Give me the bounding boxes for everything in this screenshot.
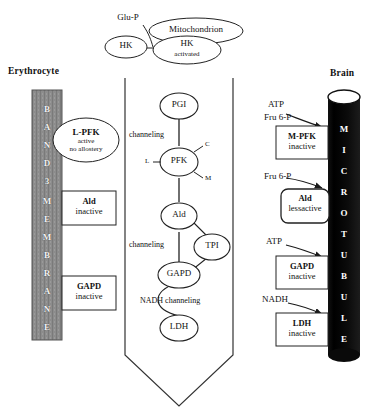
tpi-label: TPI bbox=[192, 241, 232, 250]
erythrocyte-panel-title: Erythrocyte bbox=[8, 66, 59, 76]
hk-activated-label-1: HK bbox=[157, 39, 217, 48]
microtubule-letter: B bbox=[336, 271, 352, 281]
band3-letter: 3 bbox=[39, 176, 55, 186]
microtubule-bottom-cap bbox=[328, 348, 360, 362]
channeling-label-2: channeling bbox=[129, 240, 164, 249]
hk-free-label: HK bbox=[106, 41, 146, 50]
microtubule-letter: M bbox=[336, 124, 352, 134]
l-pfk-name: L-PFK bbox=[53, 128, 119, 137]
glu-p-label: Glu-P bbox=[108, 13, 148, 22]
pgi-label: PGI bbox=[159, 100, 199, 109]
erythrocyte-ald-state: inactive bbox=[62, 207, 116, 217]
microtubule-letter: I bbox=[336, 145, 352, 155]
band3-letter: M bbox=[39, 196, 55, 206]
brain-gapd-state: inactive bbox=[276, 272, 328, 282]
brain-ald-state: lessactive bbox=[281, 204, 329, 214]
erythrocyte-ald-box-text: Ald inactive bbox=[62, 197, 116, 217]
pfk-c-tick bbox=[194, 146, 203, 152]
microtubule-top-cap bbox=[328, 90, 360, 104]
microtubule-letter: O bbox=[336, 208, 352, 218]
pfk-subunit-c: C bbox=[205, 140, 210, 148]
band3-letter: R bbox=[39, 268, 55, 278]
pfk-subunit-l: L bbox=[145, 157, 149, 165]
band3-letter: D bbox=[39, 158, 55, 168]
band3-letter: N bbox=[39, 304, 55, 314]
ldh-label: LDH bbox=[159, 322, 199, 331]
microtubule-letter: L bbox=[336, 313, 352, 323]
arrow-to-brain-gapd bbox=[286, 245, 322, 257]
brain-ald-input-fru6p: Fru 6-P bbox=[264, 172, 291, 181]
microtubule-letter: E bbox=[336, 334, 352, 344]
brain-panel-title: Brain bbox=[330, 68, 354, 78]
ald-label: Ald bbox=[159, 210, 199, 219]
erythrocyte-gapd-box-text: GAPD inactive bbox=[62, 282, 116, 302]
diagram-canvas: Glu-P HK Mitochondrion HK activated Eryt… bbox=[0, 0, 374, 413]
microtubule-letter: T bbox=[336, 229, 352, 239]
pfk-label: PFK bbox=[159, 156, 199, 165]
m-pfk-box-text: M-PFK inactive bbox=[276, 132, 328, 152]
brain-ldh-box-text: LDH inactive bbox=[276, 319, 328, 339]
brain-ldh-state: inactive bbox=[276, 329, 328, 339]
arrow-to-mpfk bbox=[286, 114, 322, 127]
microtubule-letter: C bbox=[336, 166, 352, 176]
band3-letter: B bbox=[39, 104, 55, 114]
pfk-subunit-m: M bbox=[205, 174, 211, 182]
arrow-to-brain-ldh bbox=[288, 303, 322, 314]
brain-gapd-box-text: GAPD inactive bbox=[276, 262, 328, 282]
brain-gapd-input-atp: ATP bbox=[266, 237, 282, 246]
erythrocyte-gapd-state: inactive bbox=[62, 292, 116, 302]
m-pfk-state: inactive bbox=[276, 142, 328, 152]
mpfk-input-fru6p: Fru 6-P bbox=[264, 113, 291, 122]
l-pfk-state-2: no allostery bbox=[53, 145, 119, 153]
l-pfk-state-1: active bbox=[53, 137, 119, 145]
microtubule-letter: U bbox=[336, 250, 352, 260]
microtubule-letter: R bbox=[336, 187, 352, 197]
hk-activated-label-2: activated bbox=[157, 50, 217, 58]
channeling-label-1: channeling bbox=[129, 130, 164, 139]
arrow-to-brain-ald bbox=[286, 178, 322, 188]
band3-letter: A bbox=[39, 286, 55, 296]
mpfk-input-atp: ATP bbox=[268, 100, 284, 109]
band3-letter: B bbox=[39, 250, 55, 260]
brain-ald-box-text: Ald lessactive bbox=[281, 194, 329, 214]
brain-ldh-input-nadh: NADH bbox=[262, 295, 288, 304]
band3-letter: M bbox=[39, 232, 55, 242]
band3-letter: E bbox=[39, 322, 55, 332]
microtubule-letter: U bbox=[336, 292, 352, 302]
mitochondrion-label: Mitochondrion bbox=[150, 25, 242, 34]
pfk-m-tick bbox=[194, 172, 203, 178]
ald-tpi-link bbox=[193, 222, 207, 236]
band3-letter: E bbox=[39, 214, 55, 224]
gapd-label: GAPD bbox=[157, 269, 201, 278]
l-pfk-label-group: L-PFK active no allostery bbox=[53, 128, 119, 153]
nadh-channeling-label: NADH channeling bbox=[140, 296, 200, 305]
